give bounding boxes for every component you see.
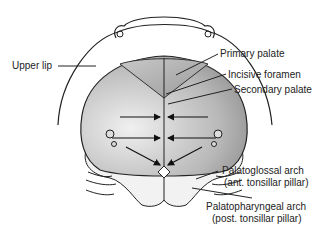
label-primary-palate: Primary palate (220, 48, 284, 59)
label-palatoglossal-sub: (ant. tonsillar pillar) (224, 177, 308, 188)
label-secondary-palate: Secondary palate (234, 84, 312, 95)
palate-diagram (0, 0, 327, 230)
label-upper-lip: Upper lip (12, 60, 52, 71)
label-palatopharyngeal-sub: (post. tonsillar pillar) (212, 213, 301, 224)
label-incisive-foramen: Incisive foramen (228, 69, 301, 80)
label-palatoglossal-arch: Palatoglossal arch (222, 165, 304, 176)
label-palatopharyngeal-arch: Palatopharyngeal arch (206, 201, 306, 212)
upper-lip-arc (118, 25, 210, 33)
